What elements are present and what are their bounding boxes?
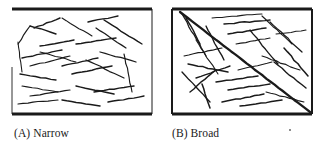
caption-narrow: (A) Narrow bbox=[14, 126, 69, 141]
panel-broad bbox=[166, 0, 324, 125]
caption-broad: (B) Broad bbox=[172, 126, 219, 141]
panel-broad-canvas bbox=[166, 0, 324, 125]
panel-broad-segments bbox=[180, 12, 310, 112]
panel-narrow-segments bbox=[18, 16, 144, 106]
line-orientation-figure: (A) Narrow (B) Broad bbox=[0, 0, 332, 148]
panel-narrow bbox=[0, 0, 158, 125]
caption-row: (A) Narrow (B) Broad bbox=[0, 125, 332, 148]
scan-speck bbox=[289, 129, 291, 131]
panel-narrow-canvas bbox=[0, 0, 158, 125]
